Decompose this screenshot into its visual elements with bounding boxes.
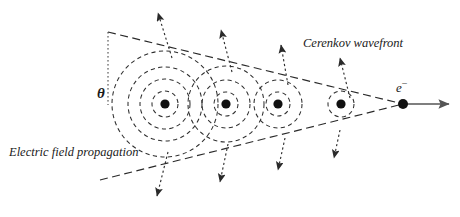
field-direction-arrow [278, 138, 285, 170]
field-direction-arrow [281, 45, 288, 85]
emission-point-dot [160, 99, 169, 108]
electron-label: e− [396, 78, 407, 96]
diagram-canvas: Cerenkov wavefront Electric field propag… [0, 0, 460, 217]
electron-dot [398, 99, 408, 109]
cerenkov-wavefront-label: Cerenkov wavefront [303, 36, 403, 51]
field-direction-arrow [334, 130, 340, 158]
electric-field-propagation-label: Electric field propagation [9, 145, 138, 160]
wavelet-circle-group [112, 51, 354, 157]
cone-line-lower [100, 104, 403, 180]
emission-point-dot [273, 99, 282, 108]
cerenkov-angle-label: θ [97, 85, 105, 102]
field-direction-arrow [157, 152, 168, 196]
field-direction-arrow [220, 144, 228, 182]
cerenkov-diagram-svg [0, 0, 460, 217]
electron-charge-superscript: − [402, 78, 408, 89]
emission-point-dot [336, 99, 345, 108]
particle-track-group [160, 99, 449, 109]
field-direction-arrow [340, 58, 350, 98]
emission-point-dot [221, 99, 230, 108]
